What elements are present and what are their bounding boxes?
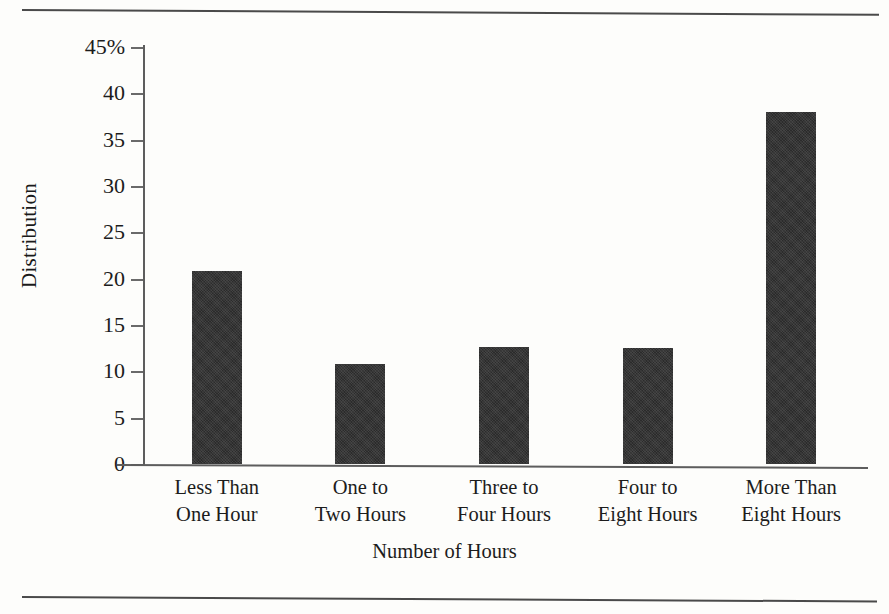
x-axis-tick-label-line: Three to <box>432 474 576 501</box>
bar <box>766 112 816 464</box>
y-axis-tick <box>131 418 143 420</box>
x-axis-tick-label-line: Eight Hours <box>576 501 720 528</box>
bars-container <box>145 47 863 464</box>
bar <box>623 348 673 464</box>
bar <box>192 271 242 464</box>
x-axis-tick-label-line: Two Hours <box>289 501 433 528</box>
x-axis-tick-label-line: Less Than <box>145 474 289 501</box>
bar-chart: Distribution 051015202530354045% Less Th… <box>0 0 889 614</box>
x-axis-tick-label-line: Eight Hours <box>719 501 863 528</box>
x-axis-tick-label-line: Four to <box>576 474 720 501</box>
y-axis-tick <box>131 279 143 281</box>
bar <box>335 364 385 464</box>
x-axis-tick-labels: Less ThanOne HourOne toTwo HoursThree to… <box>145 474 863 534</box>
figure-page: Distribution 051015202530354045% Less Th… <box>0 0 889 614</box>
y-axis-tick <box>131 93 143 95</box>
y-axis-tick <box>131 232 143 234</box>
bar <box>479 347 529 464</box>
x-axis-tick-label-line: More Than <box>719 474 863 501</box>
x-axis-tick-label-line: One Hour <box>145 501 289 528</box>
x-axis-tick-label: Less ThanOne Hour <box>145 474 289 534</box>
y-axis-tick <box>131 47 143 49</box>
x-axis-title: Number of Hours <box>0 540 889 563</box>
x-axis-tick-label: More ThanEight Hours <box>719 474 863 534</box>
y-axis-tick <box>131 325 143 327</box>
y-axis-tick <box>131 186 143 188</box>
x-axis-tick-label: One toTwo Hours <box>289 474 433 534</box>
x-axis-tick-label-line: One to <box>289 474 433 501</box>
x-axis-tick-label: Four toEight Hours <box>576 474 720 534</box>
x-axis-tick-label: Three toFour Hours <box>432 474 576 534</box>
y-axis-tick <box>131 140 143 142</box>
x-axis-tick-label-line: Four Hours <box>432 501 576 528</box>
y-axis-tick <box>131 371 143 373</box>
